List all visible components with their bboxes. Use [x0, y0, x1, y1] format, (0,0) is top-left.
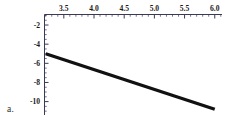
y-tick-label: -10 — [30, 97, 40, 106]
y-tick-label: -2 — [34, 21, 41, 30]
plot-canvas: 3.54.04.55.05.56.0-2-4-6-8-10 — [0, 0, 228, 134]
y-tick-label: -4 — [34, 40, 41, 49]
y-tick-label: -8 — [34, 78, 41, 87]
x-tick-label: 6.0 — [210, 4, 220, 13]
plot-figure: 3.54.04.55.05.56.0-2-4-6-8-10 a. — [0, 0, 228, 134]
x-tick-label: 4.0 — [89, 4, 99, 13]
data-line — [46, 54, 215, 110]
figure-caption: a. — [7, 104, 14, 114]
x-tick-label: 5.0 — [150, 4, 160, 13]
x-tick-label: 5.5 — [180, 4, 190, 13]
y-tick-label: -6 — [34, 59, 41, 68]
x-tick-label: 3.5 — [59, 4, 69, 13]
x-tick-label: 4.5 — [119, 4, 129, 13]
